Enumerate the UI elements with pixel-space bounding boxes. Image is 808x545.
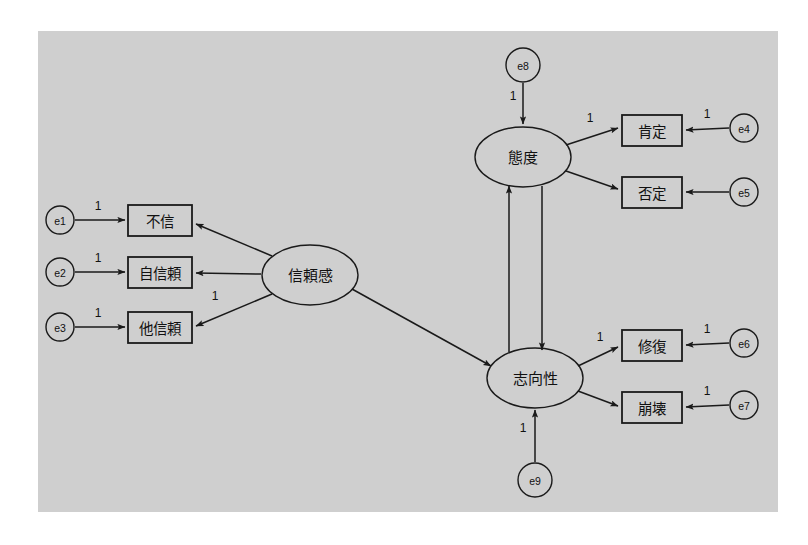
latent-label-orientation: 志向性 — [513, 370, 558, 388]
error-label-e2: e2 — [54, 267, 66, 279]
latent-label-trust: 信頼感 — [288, 267, 333, 285]
coefficient-label-e1-m1: 1 — [95, 199, 102, 213]
edge-trust-m2 — [196, 273, 261, 274]
error-label-e7: e7 — [738, 400, 750, 412]
error-label-e8: e8 — [517, 60, 529, 72]
sem-diagram-root: 信頼感態度志向性不信自信頼他信頼肯定否定修復崩壊e1e2e3e4e5e6e7e8… — [0, 0, 808, 545]
observed-label-m7: 崩壊 — [638, 401, 666, 417]
observed-label-m3: 他信頼 — [139, 321, 182, 337]
observed-label-m4: 肯定 — [638, 124, 666, 140]
observed-label-m5: 否定 — [638, 186, 666, 202]
coefficient-label-e8-attitude: 1 — [510, 89, 517, 103]
coefficient-label-e9-orientation: 1 — [520, 421, 527, 435]
latent-label-attitude: 態度 — [508, 149, 538, 167]
error-label-e4: e4 — [738, 123, 750, 135]
coefficient-label-e3-m3: 1 — [95, 306, 102, 320]
coefficient-label-e4-m4: 1 — [704, 107, 711, 121]
error-label-e5: e5 — [738, 187, 750, 199]
error-label-e3: e3 — [54, 322, 66, 334]
coefficient-label-trust-m3: 1 — [212, 289, 219, 303]
sem-path-diagram-canvas: 信頼感態度志向性不信自信頼他信頼肯定否定修復崩壊e1e2e3e4e5e6e7e8… — [0, 0, 808, 545]
error-label-e6: e6 — [738, 338, 750, 350]
coefficient-label-e7-m7: 1 — [704, 384, 711, 398]
coefficient-label-e2-m2: 1 — [95, 251, 102, 265]
error-label-e1: e1 — [54, 215, 66, 227]
observed-label-m1: 不信 — [146, 214, 174, 230]
edge-line-trust-m2 — [196, 273, 261, 274]
observed-label-m2: 自信頼 — [139, 266, 182, 282]
coefficient-label-orientation-m6: 1 — [597, 330, 604, 344]
coefficient-label-e6-m6: 1 — [704, 322, 711, 336]
observed-label-m6: 修復 — [638, 339, 667, 355]
error-label-e9: e9 — [529, 475, 541, 487]
coefficient-label-attitude-m4: 1 — [587, 111, 594, 125]
